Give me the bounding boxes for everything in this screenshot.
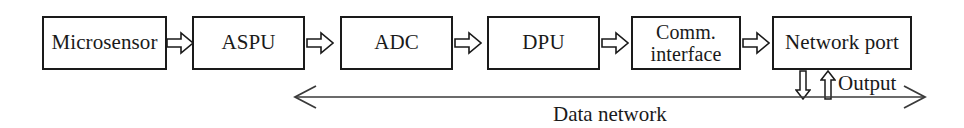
- arrow-comm-interface-to-network-port-icon: [742, 30, 770, 56]
- arrow-microsensor-to-aspu-icon: [166, 30, 194, 56]
- block-adc: ADC: [340, 16, 453, 70]
- data-network-caption: Data network: [553, 104, 667, 125]
- block-comm-interface: Comm. interface: [631, 16, 741, 70]
- block-aspu: ASPU: [192, 16, 305, 70]
- block-aspu-label: ASPU: [218, 31, 278, 55]
- block-microsensor-label: Microsensor: [48, 31, 160, 55]
- block-microsensor: Microsensor: [42, 16, 167, 70]
- arrow-aspu-to-adc-icon: [306, 30, 334, 56]
- block-dpu: DPU: [487, 16, 600, 70]
- block-network-port-label: Network port: [782, 31, 902, 55]
- block-adc-label: ADC: [371, 31, 422, 55]
- output-label: Output: [838, 73, 896, 94]
- block-comm-interface-label: Comm. interface: [648, 21, 725, 66]
- block-diagram: Microsensor ASPU ADC DPU Comm. interface…: [0, 0, 964, 128]
- block-dpu-label: DPU: [519, 31, 567, 55]
- arrow-adc-to-dpu-icon: [454, 30, 482, 56]
- arrow-dpu-to-comm-interface-icon: [601, 30, 629, 56]
- block-network-port: Network port: [772, 16, 912, 70]
